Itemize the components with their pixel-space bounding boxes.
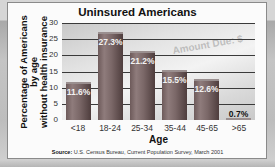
- source-text: U.S. Census Bureau, Current Population S…: [74, 149, 223, 155]
- x-tick-label: 35-44: [158, 123, 192, 133]
- bar: 21.2%: [130, 51, 155, 120]
- bar-value-label: 0.7%: [224, 109, 253, 119]
- bar-value-label: 27.3%: [96, 37, 125, 47]
- bar-value-label: 15.5%: [160, 75, 189, 85]
- y-tick-label: 10: [46, 84, 58, 92]
- source-label: Source:: [52, 149, 72, 155]
- gridline: [62, 23, 255, 24]
- y-tick-label: 20: [46, 51, 58, 59]
- gridline: [62, 72, 255, 73]
- x-tick-label: <18: [61, 123, 95, 133]
- source-note: Source: U.S. Census Bureau, Current Popu…: [0, 149, 275, 155]
- bar: 0.7%: [226, 118, 251, 120]
- x-tick-label: >65: [222, 123, 256, 133]
- bar: 27.3%: [98, 32, 123, 120]
- bar-value-label: 21.2%: [128, 56, 157, 66]
- gridline: [62, 39, 255, 40]
- bar-value-label: 12.6%: [192, 84, 221, 94]
- plot-area: Amount Due: $ 11.6%27.3%21.2%15.5%12.6%0…: [62, 23, 255, 120]
- gridline: [62, 55, 255, 56]
- bar: 11.6%: [66, 82, 91, 120]
- y-tick-label: 15: [46, 68, 58, 76]
- bar: 12.6%: [194, 79, 219, 120]
- y-tick-label: 0: [46, 116, 58, 124]
- y-tick-label: 25: [46, 35, 58, 43]
- x-axis-label: Age: [62, 134, 255, 145]
- y-tick-label: 5: [46, 100, 58, 108]
- background-watermark: Amount Due: $: [172, 33, 244, 56]
- bar: 15.5%: [162, 70, 187, 120]
- x-tick-label: 18-24: [93, 123, 127, 133]
- x-tick-label: 45-65: [190, 123, 224, 133]
- x-tick-label: 25-34: [125, 123, 159, 133]
- y-tick-label: 30: [46, 19, 58, 27]
- bar-value-label: 11.6%: [64, 87, 93, 97]
